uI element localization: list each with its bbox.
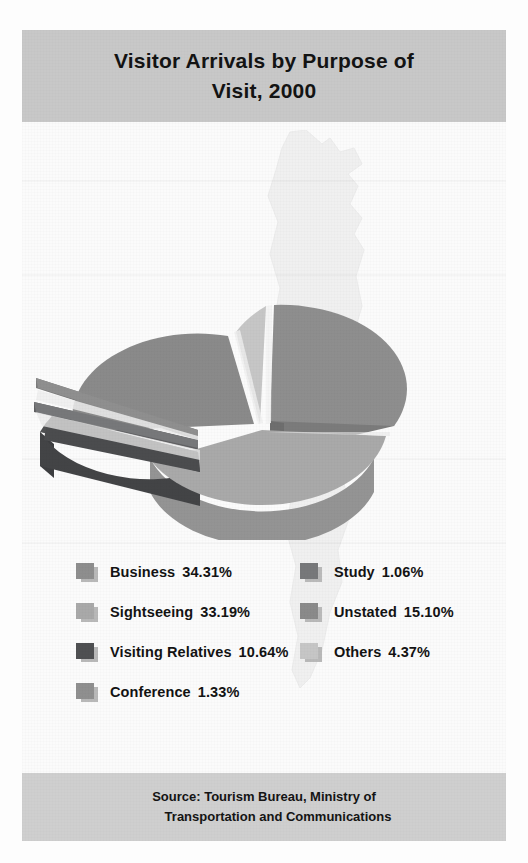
legend-item-business[interactable]: Business34.31% — [76, 552, 288, 592]
legend-label-others: Others4.37% — [334, 644, 430, 660]
chart-body: Business34.31% Sightseeing33.19% — [22, 122, 506, 773]
legend-swatch-sightseeing — [76, 603, 98, 622]
legend-pct-conference: 1.33% — [198, 684, 240, 700]
legend-pct-others: 4.37% — [388, 644, 430, 660]
legend-text-visiting-relatives: Visiting Relatives — [110, 644, 232, 660]
legend-item-unstated[interactable]: Unstated15.10% — [300, 592, 454, 632]
slice-top-business — [270, 305, 407, 426]
source-line-1: Source: Tourism Bureau, Ministry of — [22, 787, 506, 807]
legend-text-conference: Conference — [110, 684, 191, 700]
legend-text-others: Others — [334, 644, 381, 660]
legend-pct-sightseeing: 33.19% — [200, 604, 250, 620]
legend-pct-study: 1.06% — [382, 564, 424, 580]
legend-pct-business: 34.31% — [182, 564, 232, 580]
source-line-2: Transportation and Communications — [22, 807, 506, 827]
legend-text-unstated: Unstated — [334, 604, 397, 620]
legend-label-visiting-relatives: Visiting Relatives10.64% — [110, 644, 288, 660]
chart-footer: Source: Tourism Bureau, Ministry of Tran… — [22, 773, 506, 841]
pie-chart-svg — [22, 140, 506, 540]
legend-label-business: Business34.31% — [110, 564, 232, 580]
legend-item-study[interactable]: Study1.06% — [300, 552, 454, 592]
legend-swatch-unstated — [300, 603, 322, 622]
legend-text-sightseeing: Sightseeing — [110, 604, 193, 620]
legend-item-sightseeing[interactable]: Sightseeing33.19% — [76, 592, 288, 632]
chart-header: Visitor Arrivals by Purpose of Visit, 20… — [22, 30, 506, 122]
legend-label-conference: Conference1.33% — [110, 684, 239, 700]
explode-gap-4 — [266, 305, 272, 424]
legend-swatch-study — [300, 563, 322, 582]
chart-panel: Visitor Arrivals by Purpose of Visit, 20… — [22, 30, 506, 841]
legend-pct-unstated: 15.10% — [404, 604, 454, 620]
legend-label-study: Study1.06% — [334, 564, 423, 580]
chart-page: Visitor Arrivals by Purpose of Visit, 20… — [0, 0, 528, 863]
page-title-line-1: Visitor Arrivals by Purpose of — [22, 46, 506, 76]
legend-column-right: Study1.06% Unstated15.10% — [300, 552, 454, 672]
legend-swatch-business — [76, 563, 98, 582]
legend-swatch-visiting-relatives — [76, 643, 98, 662]
legend-text-business: Business — [110, 564, 175, 580]
legend-item-others[interactable]: Others4.37% — [300, 632, 454, 672]
legend-pct-visiting-relatives: 10.64% — [239, 644, 289, 660]
legend-item-visiting-relatives[interactable]: Visiting Relatives10.64% — [76, 632, 288, 672]
pie-chart — [22, 140, 506, 540]
legend-label-sightseeing: Sightseeing33.19% — [110, 604, 250, 620]
legend-text-study: Study — [334, 564, 375, 580]
legend-label-unstated: Unstated15.10% — [334, 604, 454, 620]
legend-swatch-others — [300, 643, 322, 662]
page-title-line-2: Visit, 2000 — [22, 76, 506, 106]
chart-legend: Business34.31% Sightseeing33.19% — [22, 552, 506, 702]
legend-swatch-conference — [76, 683, 98, 702]
legend-item-conference[interactable]: Conference1.33% — [76, 672, 288, 712]
legend-column-left: Business34.31% Sightseeing33.19% — [76, 552, 288, 712]
